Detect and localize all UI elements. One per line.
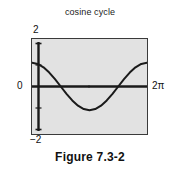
y-axis-max-label: 2 (33, 24, 39, 35)
plot-area (31, 38, 148, 135)
cosine-plot-svg (32, 39, 147, 134)
chart-title: cosine cycle (0, 7, 180, 18)
center-marker-dot (88, 85, 90, 87)
figure-container: cosine cycle 2 0 −2 2π Figure 7.3-2 (0, 0, 180, 171)
y-axis-zero-label: 0 (17, 80, 23, 91)
x-axis-max-label: 2π (152, 80, 164, 91)
figure-caption: Figure 7.3-2 (0, 150, 180, 164)
y-axis-min-label: −2 (30, 134, 41, 145)
